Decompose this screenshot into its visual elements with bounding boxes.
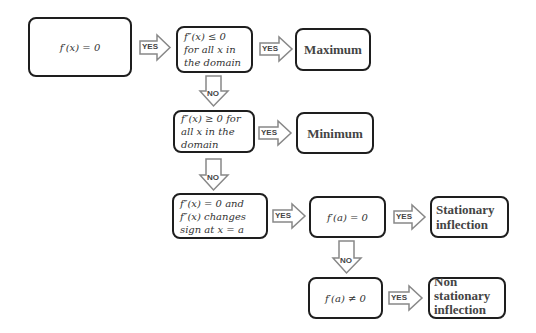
yes-arrow-5: YES [393,204,426,230]
yes-arrow-2: YES [259,36,293,62]
condition-line: domain [181,138,241,151]
condition-line: for all x in [184,43,241,56]
condition-line: sign at x = a [180,223,246,236]
node-condition-inflection: f″(x) = 0 and f″(x) changes sign at x = … [172,193,268,239]
no-arrow-3: NO [332,240,362,274]
node-condition-stationary: f′(a) = 0 [309,196,386,238]
node-result-stationary-inflection: Stationary inflection [430,196,509,238]
node-condition-minimum: f″(x) ≥ 0 for all x in the domain [173,110,255,153]
condition-stationary-text: f′(a) = 0 [327,212,368,223]
condition-line: all x in the [181,125,241,138]
result-line: stationary [434,289,490,303]
no-arrow-1: NO [199,75,229,107]
node-start-text: f′(x) = 0 [60,42,101,53]
no-label: NO [207,89,219,98]
yes-label: YES [396,212,412,221]
condition-line: f″(x) changes [180,210,246,223]
result-line: inflection [434,303,490,317]
result-minimum-text: Minimum [307,126,363,141]
yes-arrow-4: YES [272,203,306,229]
result-line: Stationary [436,202,495,217]
condition-line: f″(x) ≥ 0 for [181,112,241,125]
result-maximum-text: Maximum [304,42,362,57]
node-result-nonstationary-inflection: Non stationary inflection [428,277,506,319]
condition-line: f″(x) = 0 and [180,197,246,210]
node-result-maximum: Maximum [295,28,371,71]
condition-line: f″(x) ≤ 0 [184,30,241,43]
yes-arrow-1: YES [139,34,171,61]
yes-arrow-6: YES [388,285,423,311]
node-start: f′(x) = 0 [28,17,132,77]
yes-label: YES [391,293,407,302]
no-label: NO [207,173,219,182]
yes-label: YES [261,128,277,137]
yes-arrow-3: YES [258,120,292,146]
result-line: Non [434,275,490,289]
no-arrow-2: NO [199,158,229,191]
yes-label: YES [142,42,158,51]
condition-nonstationary-text: f′(a) ≠ 0 [325,293,366,304]
condition-line: the domain [184,56,241,69]
node-condition-maximum: f″(x) ≤ 0 for all x in the domain [176,26,253,73]
no-label: NO [340,256,352,265]
yes-label: YES [275,211,291,220]
node-condition-nonstationary: f′(a) ≠ 0 [308,277,383,319]
yes-label: YES [262,44,278,53]
result-line: inflection [436,217,495,232]
node-result-minimum: Minimum [296,112,374,154]
